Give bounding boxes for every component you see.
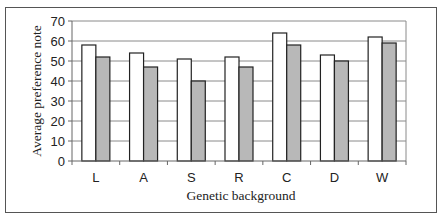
bar-R-series1	[225, 57, 239, 161]
x-tick-label: R	[234, 170, 243, 185]
y-tick-label: 70	[51, 14, 65, 29]
bars	[82, 33, 396, 161]
bar-A-series2	[144, 67, 158, 161]
bar-W-series1	[368, 37, 382, 161]
y-tick-label: 10	[51, 134, 65, 149]
x-axis-title: Genetic background	[186, 188, 295, 203]
bar-S-series2	[191, 81, 205, 161]
y-tick-label: 20	[51, 114, 65, 129]
bar-S-series1	[177, 59, 191, 161]
x-tick-label: L	[92, 170, 99, 185]
bar-D-series2	[334, 61, 348, 161]
y-tick-label: 30	[51, 94, 65, 109]
x-axis-ticks: LASRCDW	[72, 161, 406, 185]
bar-A-series1	[130, 53, 144, 161]
bar-chart: 010203040506070 LASRCDW Average preferen…	[0, 0, 442, 219]
bar-L-series2	[96, 57, 110, 161]
x-tick-label: D	[330, 170, 339, 185]
bar-D-series1	[320, 55, 334, 161]
y-tick-label: 40	[51, 74, 65, 89]
bar-W-series2	[382, 43, 396, 161]
x-tick-label: W	[376, 170, 389, 185]
bar-L-series1	[82, 45, 96, 161]
bar-C-series2	[287, 45, 301, 161]
y-tick-label: 60	[51, 34, 65, 49]
y-axis-ticks: 010203040506070	[51, 14, 72, 169]
bar-C-series1	[273, 33, 287, 161]
x-tick-label: C	[282, 170, 291, 185]
y-axis-title: Average preference note	[29, 25, 44, 157]
x-tick-label: S	[187, 170, 196, 185]
bar-R-series2	[239, 67, 253, 161]
x-tick-label: A	[139, 170, 148, 185]
y-tick-label: 0	[58, 154, 65, 169]
y-tick-label: 50	[51, 54, 65, 69]
